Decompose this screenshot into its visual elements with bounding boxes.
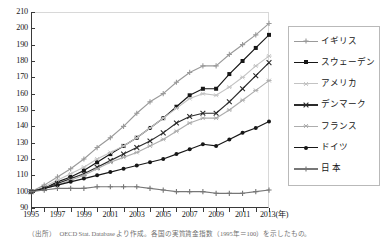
legend-label: デンマーク: [321, 100, 367, 109]
legend-item-4[interactable]: フランス: [294, 118, 357, 134]
legend-item-5[interactable]: ドイツ: [294, 140, 348, 156]
data-series-layer: [0, 0, 272, 224]
legend-item-0[interactable]: イギリス: [294, 33, 357, 49]
legend-label: イギリス: [321, 37, 357, 46]
series-6: [28, 184, 271, 196]
legend-item-6[interactable]: 日 本: [294, 161, 341, 177]
legend-marker-icon: [294, 163, 318, 175]
plot-area: 90100110120130140150160170180190200210 1…: [0, 0, 272, 224]
series-0: [28, 21, 271, 194]
legend-marker-icon: [294, 35, 318, 47]
legend-label: ドイツ: [321, 143, 348, 152]
legend-label: 日 本: [321, 164, 341, 173]
chart-caption: （出所） OECD Stat. Database より作成。各国の実質賃金指数（…: [28, 230, 384, 238]
series-line: [31, 35, 269, 192]
chart-root: 90100110120130140150160170180190200210 1…: [0, 0, 386, 241]
legend-marker-icon: [294, 78, 318, 90]
legend-label: アメリカ: [321, 79, 357, 88]
legend-label: フランス: [321, 122, 357, 131]
legend-marker-icon: [294, 56, 318, 68]
legend-item-1[interactable]: スウェーデン: [294, 54, 376, 70]
legend-item-2[interactable]: アメリカ: [294, 76, 357, 92]
legend-label: スウェーデン: [321, 58, 376, 67]
legend-marker-icon: [294, 99, 318, 111]
legend-item-3[interactable]: デンマーク: [294, 97, 367, 113]
series-1: [29, 33, 271, 194]
legend-marker-icon: [294, 142, 318, 154]
chart-legend: イギリススウェーデンアメリカデンマークフランスドイツ日 本: [288, 26, 380, 186]
legend-marker-icon: [294, 120, 318, 132]
